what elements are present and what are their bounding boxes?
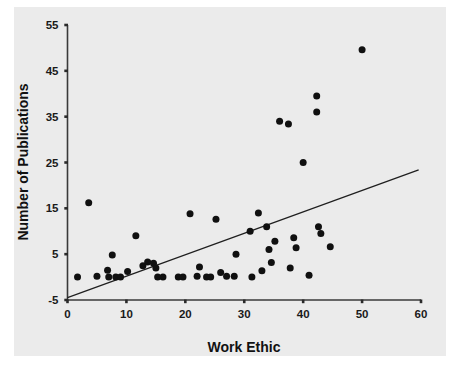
data-point bbox=[285, 121, 292, 128]
data-point bbox=[104, 267, 111, 274]
y-tick-label-5: 5 bbox=[52, 248, 59, 260]
data-point bbox=[105, 274, 112, 281]
data-point bbox=[248, 274, 255, 281]
data-point bbox=[152, 264, 159, 271]
data-point bbox=[306, 272, 313, 279]
data-point bbox=[159, 274, 166, 281]
x-axis-title: Work Ethic bbox=[208, 339, 281, 355]
data-point bbox=[187, 210, 194, 217]
data-point bbox=[287, 264, 294, 271]
data-point bbox=[315, 223, 322, 230]
data-point bbox=[217, 269, 224, 276]
data-point bbox=[300, 159, 307, 166]
x-tick-label-30: 30 bbox=[238, 308, 251, 320]
data-point bbox=[276, 118, 283, 125]
data-point bbox=[223, 273, 230, 280]
y-tick-label-55: 55 bbox=[46, 19, 59, 31]
data-point bbox=[313, 109, 320, 116]
scatter-plot-figure: -551525354555 0102030405060 Work Ethic N… bbox=[0, 0, 459, 375]
data-point bbox=[271, 238, 278, 245]
data-point bbox=[212, 216, 219, 223]
y-tick-label-35: 35 bbox=[46, 111, 59, 123]
data-point bbox=[132, 232, 139, 239]
data-point bbox=[290, 234, 297, 241]
x-tick-label-50: 50 bbox=[356, 308, 369, 320]
data-point bbox=[233, 251, 240, 258]
data-point bbox=[74, 274, 81, 281]
y-axis-title: Number of Publications bbox=[15, 83, 31, 240]
data-point bbox=[144, 258, 151, 265]
data-point bbox=[207, 274, 214, 281]
x-tick-label-10: 10 bbox=[120, 308, 133, 320]
data-point bbox=[109, 252, 116, 259]
data-point bbox=[117, 274, 124, 281]
data-point bbox=[196, 264, 203, 271]
data-point bbox=[124, 268, 131, 275]
y-axis-tick-labels: -551525354555 bbox=[46, 19, 59, 306]
data-point bbox=[93, 273, 100, 280]
data-point bbox=[247, 228, 254, 235]
data-point bbox=[255, 209, 262, 216]
x-tick-label-20: 20 bbox=[179, 308, 192, 320]
x-axis-tick-labels: 0102030405060 bbox=[64, 308, 427, 320]
x-tick-label-0: 0 bbox=[64, 308, 70, 320]
data-point bbox=[317, 230, 324, 237]
y-tick-label-45: 45 bbox=[46, 65, 59, 77]
y-tick-label-25: 25 bbox=[46, 157, 59, 169]
y-tick-label-15: 15 bbox=[46, 202, 59, 214]
data-point bbox=[263, 223, 270, 230]
data-points bbox=[74, 46, 366, 280]
data-point bbox=[85, 199, 92, 206]
data-point bbox=[179, 274, 186, 281]
data-point bbox=[293, 244, 300, 251]
data-point bbox=[313, 93, 320, 100]
data-point bbox=[327, 243, 334, 250]
data-point bbox=[194, 273, 201, 280]
x-tick-label-40: 40 bbox=[297, 308, 310, 320]
data-point bbox=[258, 267, 265, 274]
x-tick-label-60: 60 bbox=[415, 308, 428, 320]
plot-canvas: -551525354555 0102030405060 Work Ethic N… bbox=[0, 0, 459, 375]
data-point bbox=[268, 259, 275, 266]
data-point bbox=[265, 246, 272, 253]
y-tick-label--5: -5 bbox=[48, 294, 59, 306]
data-point bbox=[359, 46, 366, 53]
data-point bbox=[231, 273, 238, 280]
